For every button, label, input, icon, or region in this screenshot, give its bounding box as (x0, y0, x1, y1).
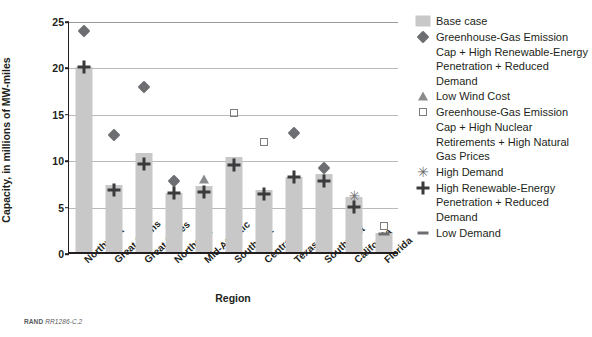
legend-item[interactable]: Greenhouse-Gas Emission Cap + High Renew… (414, 30, 590, 88)
chart-column: ✳California (339, 22, 369, 252)
figure-caption: RANDRR1286-C.2 (24, 318, 82, 325)
legend-marker-cell: ✳ (414, 165, 436, 180)
y-tick-label: 10 (52, 155, 64, 167)
chart-column: Mid-Atlantic (189, 22, 219, 252)
legend-item[interactable]: Greenhouse-Gas Emission Cap + High Nucle… (414, 105, 590, 163)
y-tick-label: 20 (52, 62, 64, 74)
caption-source: RAND (24, 318, 43, 325)
y-tick-label: 5 (58, 202, 64, 214)
legend-label: Low Demand (436, 226, 501, 241)
data-point-diamond (318, 162, 331, 175)
plot-wrapper: Capacity, in millions of MW-miles 051015… (0, 0, 412, 280)
asterisk-icon: ✳ (417, 166, 429, 178)
chart-column: Great Plains (99, 22, 129, 252)
data-point-plus (288, 170, 301, 183)
legend-marker-cell (414, 14, 436, 29)
chart-column: Northwest (69, 22, 99, 252)
data-point-diamond (138, 80, 151, 93)
legend-marker-cell (414, 105, 436, 120)
data-point-diamond (108, 129, 121, 142)
legend-item[interactable]: Base case (414, 14, 590, 29)
data-point-dash (379, 233, 390, 236)
legend-item[interactable]: Low Demand (414, 226, 590, 241)
data-point-diamond (288, 127, 301, 140)
legend-label: Greenhouse-Gas Emission Cap + High Nucle… (436, 105, 590, 163)
data-point-triangle (199, 174, 209, 183)
legend-item[interactable]: High Renewable-Energy Penetration + Redu… (414, 181, 590, 225)
x-axis-title: Region (68, 292, 398, 304)
legend-marker-cell (414, 181, 436, 196)
data-point-plus (78, 61, 91, 74)
legend-marker-cell (414, 89, 436, 104)
dash-icon (418, 231, 429, 234)
open-square-icon (419, 108, 427, 116)
y-tick-label: 0 (58, 248, 64, 260)
data-point-plus (258, 188, 271, 201)
plot-area: 0510152025NorthwestGreat PlainsGreat Lak… (68, 22, 398, 254)
caption-identifier: RR1286-C.2 (45, 318, 82, 325)
data-point-open-square (380, 222, 388, 230)
data-point-plus (138, 157, 151, 170)
legend-item[interactable]: ✳High Demand (414, 165, 590, 180)
y-tick-mark (65, 253, 69, 255)
legend-marker-cell (414, 30, 436, 45)
bar (286, 177, 303, 252)
legend-label: Low Wind Cost (436, 89, 510, 104)
data-point-diamond (78, 25, 91, 38)
data-point-plus (108, 183, 121, 196)
chart-column: Florida (369, 22, 399, 252)
legend-label: Greenhouse-Gas Emission Cap + High Renew… (436, 30, 590, 88)
chart-column: Central (249, 22, 279, 252)
chart-column: Southwest (309, 22, 339, 252)
legend-label: High Demand (436, 165, 503, 180)
legend-marker-cell (414, 226, 436, 241)
legend-label: High Renewable-Energy Penetration + Redu… (436, 181, 590, 225)
data-point-plus (228, 158, 241, 171)
chart-legend: Base caseGreenhouse-Gas Emission Cap + H… (414, 14, 590, 242)
chart-column: Texas (279, 22, 309, 252)
data-point-open-square (230, 109, 238, 117)
bar (76, 67, 93, 252)
data-point-plus (168, 186, 181, 199)
data-point-plus (318, 175, 331, 188)
legend-item[interactable]: Low Wind Cost (414, 89, 590, 104)
y-tick-label: 25 (52, 16, 64, 28)
chart-column: Southeast (219, 22, 249, 252)
data-point-open-square (260, 138, 268, 146)
data-point-plus (198, 185, 211, 198)
chart-column: Great Lakes (129, 22, 159, 252)
figure-container: Capacity, in millions of MW-miles 051015… (0, 0, 592, 337)
data-point-plus (348, 201, 361, 214)
chart-column: Northeast (159, 22, 189, 252)
bar (166, 193, 183, 252)
bar (226, 157, 243, 252)
y-tick-label: 15 (52, 109, 64, 121)
diamond-icon (417, 31, 430, 44)
bar-swatch-icon (416, 16, 431, 27)
y-axis-title: Capacity, in millions of MW-miles (0, 57, 12, 222)
legend-label: Base case (436, 14, 487, 29)
triangle-icon (418, 92, 428, 101)
plus-icon (417, 181, 430, 194)
